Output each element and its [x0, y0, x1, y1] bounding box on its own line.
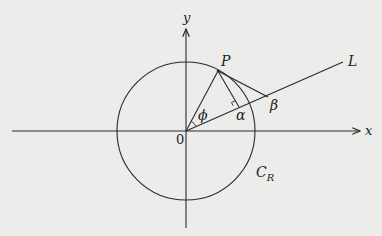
label-circle-main: C: [256, 164, 267, 180]
label-origin: 0: [176, 132, 184, 147]
label-circle: CR: [256, 164, 275, 183]
label-alpha: α: [236, 107, 246, 123]
label-circle-sub: R: [266, 172, 275, 183]
label-y: y: [182, 10, 191, 25]
label-p: P: [220, 53, 231, 69]
line-l: [186, 62, 343, 131]
label-x: x: [365, 123, 373, 138]
right-angle-mark: [232, 101, 236, 106]
point-p-dot: [217, 70, 220, 73]
label-l: L: [347, 53, 357, 69]
label-beta: β: [269, 97, 278, 113]
diagram-figure: y x 0 P L ϕ α β CR: [0, 0, 382, 236]
label-phi: ϕ: [198, 107, 208, 123]
angle-arc-phi: [191, 121, 196, 126]
diagram-canvas: y x 0 P L ϕ α β CR: [0, 0, 382, 236]
